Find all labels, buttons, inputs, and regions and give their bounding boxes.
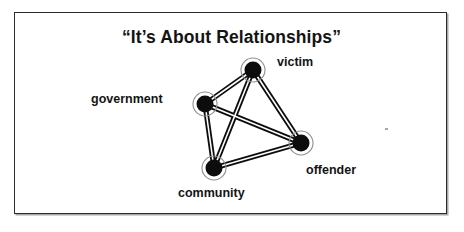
- node-offender[interactable]: [289, 131, 313, 155]
- node-group: [193, 58, 313, 180]
- node-victim[interactable]: [241, 58, 265, 82]
- node-label-government: government: [91, 93, 163, 106]
- node-label-victim: victim: [277, 56, 313, 69]
- node-community-dot: [206, 160, 223, 177]
- node-victim-dot: [245, 62, 262, 79]
- node-government-dot: [197, 96, 214, 113]
- relationship-graph-svg: [15, 13, 448, 215]
- figure-frame: “It’s About Relationships”: [14, 12, 447, 214]
- node-community[interactable]: [202, 156, 226, 180]
- scan-speck-artifact: [385, 128, 388, 130]
- node-government[interactable]: [193, 92, 217, 116]
- node-label-offender: offender: [306, 164, 356, 177]
- node-label-community: community: [178, 187, 245, 200]
- edge-gap-community-offender: [214, 143, 301, 168]
- relationship-diagram: victim government community offender: [15, 13, 448, 215]
- node-offender-dot: [293, 135, 310, 152]
- figure-page: “It’s About Relationships”: [0, 0, 464, 232]
